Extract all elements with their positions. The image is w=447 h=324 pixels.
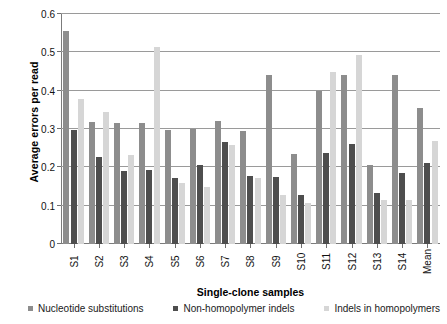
bar-group: S4 — [137, 14, 162, 244]
bar — [204, 187, 210, 244]
x-tick-mark — [149, 244, 150, 248]
y-axis-title: Average errors per read — [28, 22, 40, 222]
x-tick-mark — [175, 244, 176, 248]
bar — [146, 170, 152, 244]
legend-swatch — [324, 306, 329, 311]
x-tick-label: Mean — [422, 249, 433, 274]
x-tick-label: S8 — [245, 255, 256, 267]
bar-group: S12 — [339, 14, 364, 244]
x-tick-label: S3 — [119, 255, 130, 267]
x-tick-label: S9 — [270, 255, 281, 267]
bar-group: S8 — [238, 14, 263, 244]
bar-group: S14 — [389, 14, 414, 244]
bar — [172, 178, 178, 244]
x-tick-label: S7 — [220, 255, 231, 267]
bar — [374, 193, 380, 244]
bar — [139, 123, 145, 244]
y-tick-label: 0.4 — [41, 85, 55, 96]
bar — [179, 183, 185, 244]
x-tick-mark — [225, 244, 226, 248]
bar — [165, 130, 171, 244]
y-tick-label: 0.5 — [41, 47, 55, 58]
x-tick-label: S6 — [194, 255, 205, 267]
bar — [63, 31, 69, 244]
bar — [356, 55, 362, 244]
x-tick-mark — [276, 244, 277, 248]
legend-item: Non-homopolymer indels — [173, 303, 294, 314]
legend-label: Non-homopolymer indels — [183, 303, 294, 314]
x-tick-mark — [250, 244, 251, 248]
bar — [291, 154, 297, 244]
x-tick-label: S11 — [321, 253, 332, 270]
bar — [341, 75, 347, 244]
bar — [424, 163, 430, 244]
bar-group: S9 — [263, 14, 288, 244]
bar — [406, 200, 412, 244]
bar-chart-figure: Average errors per read 00.10.20.30.40.5… — [0, 0, 447, 324]
bar-group: S7 — [213, 14, 238, 244]
bar — [89, 122, 95, 244]
bar — [330, 72, 336, 244]
bar-group: S11 — [314, 14, 339, 244]
bar-group: S10 — [288, 14, 313, 244]
bar — [103, 112, 109, 244]
bar — [229, 145, 235, 244]
bar — [280, 195, 286, 244]
bar — [349, 144, 355, 244]
x-tick-label: S13 — [371, 253, 382, 271]
x-tick-mark — [326, 244, 327, 248]
legend-swatch — [173, 306, 178, 311]
bar — [316, 91, 322, 244]
bar — [247, 176, 253, 244]
x-tick-label: S1 — [68, 255, 79, 267]
bar — [128, 155, 134, 244]
bar — [273, 177, 279, 244]
x-tick-mark — [99, 244, 100, 248]
x-tick-label: S2 — [93, 255, 104, 267]
x-tick-label: S5 — [169, 255, 180, 267]
x-tick-mark — [352, 244, 353, 248]
bar — [367, 165, 373, 244]
x-tick-label: S12 — [346, 253, 357, 271]
y-tick-label: 0 — [49, 239, 55, 250]
bar — [417, 108, 423, 244]
x-tick-label: S10 — [296, 253, 307, 271]
y-tick-label: 0.2 — [41, 162, 55, 173]
bar — [240, 131, 246, 244]
bar-group: S13 — [364, 14, 389, 244]
bar — [71, 130, 77, 244]
bar — [298, 195, 304, 244]
bar-groups: S1S2S3S4S5S6S7S8S9S10S11S12S13S14Mean — [61, 14, 440, 244]
bar — [323, 153, 329, 244]
legend-label: Nucleotide substitutions — [38, 303, 144, 314]
bar — [190, 129, 196, 244]
x-tick-label: S4 — [144, 255, 155, 267]
legend-label: Indels in homopolymers — [334, 303, 440, 314]
chart-legend: Nucleotide substitutionsNon-homopolymer … — [28, 303, 440, 314]
y-tick-label: 0.6 — [41, 9, 55, 20]
bar — [215, 121, 221, 244]
x-tick-label: S14 — [397, 253, 408, 271]
legend-swatch — [28, 306, 33, 311]
x-tick-mark — [200, 244, 201, 248]
bar — [96, 157, 102, 244]
bar — [392, 75, 398, 244]
x-tick-mark — [74, 244, 75, 248]
bar — [197, 165, 203, 244]
y-tick-label: 0.3 — [41, 124, 55, 135]
bar — [432, 141, 438, 244]
plot-area: 00.10.20.30.40.50.6 S1S2S3S4S5S6S7S8S9S1… — [61, 14, 440, 244]
legend-item: Indels in homopolymers — [324, 303, 440, 314]
x-tick-mark — [124, 244, 125, 248]
bar-group: S6 — [187, 14, 212, 244]
bar — [266, 75, 272, 244]
bar — [255, 178, 261, 244]
bar — [305, 203, 311, 244]
bar-group: Mean — [415, 14, 440, 244]
bar — [78, 99, 84, 244]
bar-group: S3 — [112, 14, 137, 244]
x-axis-title: Single-clone samples — [61, 286, 440, 298]
bar — [381, 200, 387, 244]
bar-group: S5 — [162, 14, 187, 244]
bar-group: S2 — [86, 14, 111, 244]
